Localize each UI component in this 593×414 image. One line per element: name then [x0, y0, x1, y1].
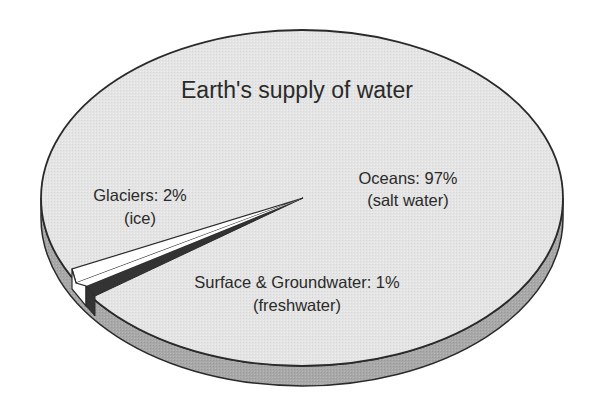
label-oceans: Oceans: 97% — [358, 169, 457, 187]
label-surface-groundwater: Surface & Groundwater: 1% — [194, 273, 400, 291]
chart-title: Earth's supply of water — [181, 77, 413, 103]
label-surface-groundwater-note: (freshwater) — [253, 296, 341, 314]
label-glaciers-note: (ice) — [124, 209, 156, 227]
pie-chart: Earth's supply of water Oceans: 97% (sal… — [0, 0, 593, 414]
label-glaciers: Glaciers: 2% — [93, 186, 187, 204]
label-oceans-note: (salt water) — [367, 191, 449, 209]
